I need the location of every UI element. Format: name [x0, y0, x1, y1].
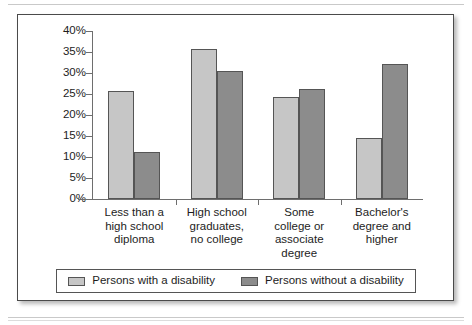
category-label-line: college or [258, 220, 341, 234]
category-label-line: High school [176, 206, 259, 220]
y-axis-tick-label: 15% [32, 130, 86, 142]
bar-group [258, 31, 341, 199]
category-label-line: degree and [341, 220, 424, 234]
legend-entry: Persons without a disability [241, 275, 404, 287]
bar-without-disability [217, 71, 243, 199]
bar-without-disability [299, 89, 325, 199]
y-axis-tick-mark [86, 199, 92, 200]
category-label-line: degree [258, 247, 341, 261]
x-axis-category-label: Less than ahigh schooldiploma [93, 206, 176, 247]
bar-with-disability [191, 49, 217, 199]
y-axis-tick-mark [86, 157, 92, 158]
group-separator-tick [176, 200, 177, 205]
chart-legend: Persons with a disabilityPersons without… [56, 269, 416, 293]
plot-area: 0%5%10%15%20%25%30%35%40% Less than ahig… [18, 15, 453, 300]
y-axis-tick-label: 35% [32, 46, 86, 58]
y-axis-tick-label: 40% [32, 25, 86, 37]
y-axis-tick-mark [86, 136, 92, 137]
y-axis-tick-mark [86, 31, 92, 32]
x-axis-category-label: High schoolgraduates,no college [176, 206, 259, 247]
legend-label: Persons with a disability [92, 275, 215, 287]
y-axis-tick-mark [86, 115, 92, 116]
category-label-line: Bachelor's [341, 206, 424, 220]
legend-label: Persons without a disability [265, 275, 404, 287]
y-axis-tick-label: 30% [32, 67, 86, 79]
category-label-line: Some [258, 206, 341, 220]
legend-swatch-dark [241, 277, 258, 286]
x-axis-category-labels: Less than ahigh schooldiplomaHigh school… [78, 206, 423, 276]
page-rule-bottom [8, 317, 464, 318]
legend-entry: Persons with a disability [68, 275, 215, 287]
group-separator-tick [258, 200, 259, 205]
page-rule-top [8, 4, 464, 5]
bar-group [341, 31, 424, 199]
x-axis-category-label: Bachelor'sdegree andhigher [341, 206, 424, 247]
bar-with-disability [356, 138, 382, 199]
y-axis-tick-mark [86, 52, 92, 53]
group-separator-tick [341, 200, 342, 205]
y-axis-tick-mark [86, 73, 92, 74]
category-label-line: diploma [93, 233, 176, 247]
x-axis-category-label: Somecollege orassociatedegree [258, 206, 341, 260]
category-label-line: high school [93, 220, 176, 234]
legend-swatch-light [68, 277, 85, 286]
y-axis-tick-label: 10% [32, 151, 86, 163]
y-axis-tick-mark [86, 94, 92, 95]
y-axis-tick-label: 25% [32, 88, 86, 100]
category-label-line: associate [258, 233, 341, 247]
bar-without-disability [134, 152, 160, 199]
bar-group [176, 31, 259, 199]
bar-with-disability [108, 91, 134, 199]
y-axis-tick-mark [86, 178, 92, 179]
category-label-line: no college [176, 233, 259, 247]
bar-with-disability [273, 97, 299, 199]
bar-without-disability [382, 64, 408, 199]
category-label-line: Less than a [93, 206, 176, 220]
y-axis-tick-label: 5% [32, 172, 86, 184]
page-rule-bottom-secondary [8, 320, 464, 321]
category-label-line: graduates, [176, 220, 259, 234]
bar-series-area [93, 31, 423, 199]
x-axis-line [78, 199, 423, 200]
y-axis-tick-labels: 0%5%10%15%20%25%30%35%40% [18, 15, 86, 300]
chart-figure-frame: 0%5%10%15%20%25%30%35%40% Less than ahig… [17, 14, 454, 301]
y-axis-tick-label: 20% [32, 109, 86, 121]
bar-group [93, 31, 176, 199]
category-label-line: higher [341, 233, 424, 247]
